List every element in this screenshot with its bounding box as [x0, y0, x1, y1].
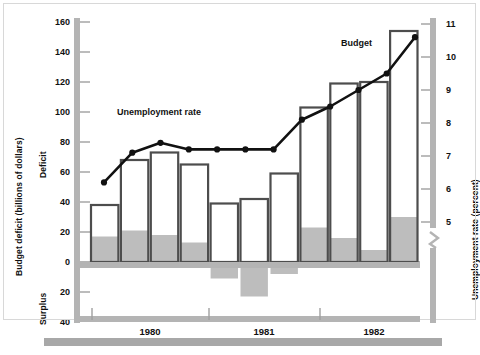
line-data-point: [271, 146, 277, 152]
footer-rule: [44, 338, 442, 346]
line-data-point: [299, 117, 305, 123]
bar-body: [241, 199, 268, 262]
line-data-point: [101, 179, 107, 185]
line-data-point: [355, 87, 361, 93]
left-tick-marks: [80, 22, 90, 292]
zero-baseline-overlay: [75, 262, 420, 268]
bar-body: [271, 174, 298, 263]
right-axis-spine: [430, 18, 436, 228]
bar-body: [211, 204, 238, 263]
line-data-point: [242, 146, 248, 152]
x-axis-spine: [75, 316, 420, 322]
axis-break-icon: [430, 232, 438, 248]
bar-shaded-portion: [390, 217, 417, 262]
left-axis-spine: [74, 18, 80, 323]
line-data-point: [384, 70, 390, 76]
bar-shaded-portion: [181, 243, 208, 263]
bar-shaded-portion: [91, 237, 118, 263]
bar-shaded-portion: [121, 231, 148, 263]
line-data-point: [327, 103, 333, 109]
bar-body: [330, 84, 357, 263]
line-data-point: [186, 146, 192, 152]
bar-shaded-portion: [300, 228, 327, 263]
bar-shaded-portion: [151, 235, 178, 262]
line-data-point: [129, 150, 135, 156]
line-data-point: [412, 34, 418, 40]
bar-body: [360, 82, 387, 262]
right-axis-spine-lower: [430, 248, 436, 323]
right-tick-marks: [421, 24, 430, 222]
bar-series: [75, 31, 420, 297]
line-data-point: [157, 140, 163, 146]
bar-shaded-portion: [360, 250, 387, 262]
line-data-point: [214, 146, 220, 152]
bar-shaded-portion: [330, 238, 357, 262]
